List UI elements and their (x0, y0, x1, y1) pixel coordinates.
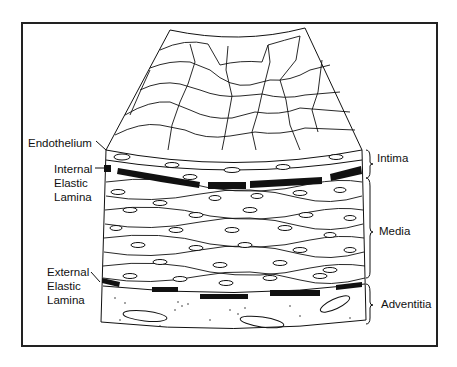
endothelial-cells (115, 36, 355, 150)
label-internal-elastic-lamina: Internal Elastic Lamina (54, 162, 92, 204)
endothelial-surface-outline (106, 28, 362, 150)
label-intima: Intima (377, 151, 408, 165)
label-line: Lamina (47, 293, 89, 307)
label-line: Elastic (47, 279, 89, 293)
outer-adventitia-edge (101, 320, 366, 329)
intima-top-curve (106, 150, 362, 163)
label-endothelium: Endothelium (28, 136, 92, 150)
media-bracket (366, 178, 373, 278)
label-adventitia: Adventitia (381, 297, 432, 311)
endothelium-pointer (96, 141, 106, 150)
label-external-elastic-lamina: External Elastic Lamina (47, 265, 89, 307)
fibroblast-cell (318, 293, 351, 316)
intima-bracket (366, 150, 373, 178)
label-media: Media (379, 224, 410, 238)
label-line: Lamina (54, 190, 92, 204)
adventitia-bracket (366, 284, 373, 324)
label-line: Internal (54, 162, 92, 176)
label-line: External (47, 265, 89, 279)
label-line: Elastic (54, 176, 92, 190)
external-elastic-lamina-pointer (91, 272, 100, 282)
fibroblast-cell (123, 309, 168, 324)
